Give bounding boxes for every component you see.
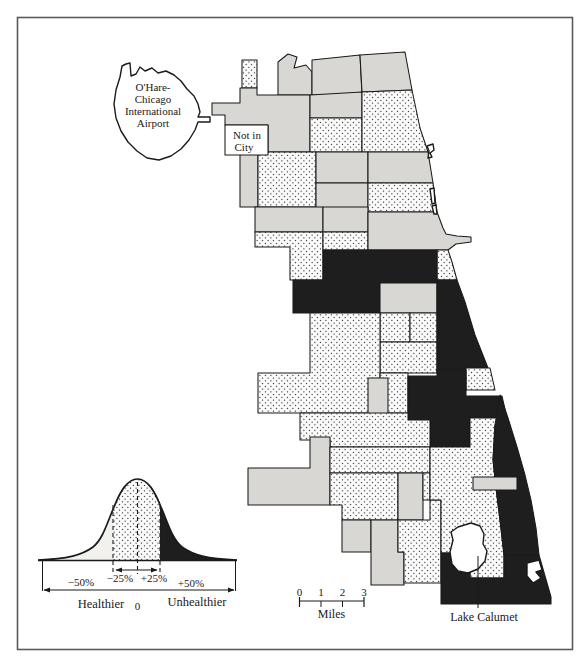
region-logan-square <box>323 207 368 232</box>
scale-tick-0: 0 <box>297 586 303 598</box>
region-washington-park <box>380 313 410 342</box>
region-mount-greenwood <box>342 520 371 552</box>
region-pilsen-littlevillage <box>258 313 380 413</box>
legend-zero: 0 <box>135 600 141 612</box>
chicago-health-map-figure: O'Hare- Chicago International Airport No… <box>0 0 588 659</box>
legend-healthier: Healthier <box>78 597 125 611</box>
not-in-city-line1: Not in <box>233 129 261 141</box>
scale-bar: 0 1 2 3 Miles <box>297 586 368 621</box>
legend-bell-curve: −25% +25% −50% +50% Healthier 0 Unhealth… <box>38 476 237 612</box>
region-clearing-gray <box>248 437 330 505</box>
region-rogers-park <box>360 52 412 92</box>
region-sw-dots-2 <box>330 447 430 473</box>
region-humboldt <box>323 232 368 250</box>
scale-tick-3: 3 <box>361 586 367 598</box>
region-portage-irving <box>258 152 316 207</box>
legend-plus25: +25% <box>141 572 167 584</box>
bell-fill-healthier <box>38 476 113 561</box>
ohare-label-line4: Airport <box>137 117 169 129</box>
region-woodlawn <box>380 342 437 373</box>
region-southeast-gray-pocket <box>473 477 517 490</box>
region-edison-strip <box>242 60 257 88</box>
region-dunning <box>240 152 258 207</box>
region-north-center <box>316 152 368 183</box>
region-west-ridge <box>312 55 362 95</box>
legend-minus25: −25% <box>107 572 133 584</box>
ohare-label-line3: International <box>125 105 181 117</box>
region-near-north <box>368 183 437 212</box>
bell-fill-unhealthier <box>160 476 237 561</box>
region-edgewater-uptown <box>362 90 428 152</box>
region-pullman-west-dots <box>423 473 430 500</box>
lake-calumet-label: Lake Calumet <box>450 610 518 624</box>
not-in-city-line2: City <box>235 141 254 153</box>
scale-tick-2: 2 <box>340 586 346 598</box>
region-ashburn-dots <box>330 473 398 520</box>
region-beverly-gray <box>398 473 423 520</box>
bell-fill-middle <box>113 476 160 561</box>
region-albany-park <box>310 118 362 152</box>
region-south-shore-dots <box>466 368 495 390</box>
region-forest-glen <box>278 54 312 95</box>
legend-plus50: +50% <box>178 577 204 589</box>
legend-minus50: −50% <box>68 576 94 588</box>
region-lakefront-black <box>437 280 488 373</box>
region-near-south-gray <box>380 283 437 313</box>
region-hyde-park-west <box>410 313 437 342</box>
region-austin <box>255 232 323 280</box>
scale-unit-label: Miles <box>318 607 346 621</box>
legend-unhealthier: Unhealthier <box>167 595 227 609</box>
region-north-park <box>310 92 362 118</box>
region-loop-near-north <box>368 212 471 250</box>
region-lake-calumet-water <box>450 523 487 573</box>
region-douglas-shore <box>437 250 457 280</box>
ohare-label-line1: O'Hare- <box>136 81 171 93</box>
scale-tick-1: 1 <box>318 586 324 598</box>
region-lincoln-park <box>368 152 433 183</box>
map-regions <box>114 52 551 604</box>
region-belmont-hermosa <box>255 207 323 232</box>
ohare-label-line2: Chicago <box>135 93 172 105</box>
